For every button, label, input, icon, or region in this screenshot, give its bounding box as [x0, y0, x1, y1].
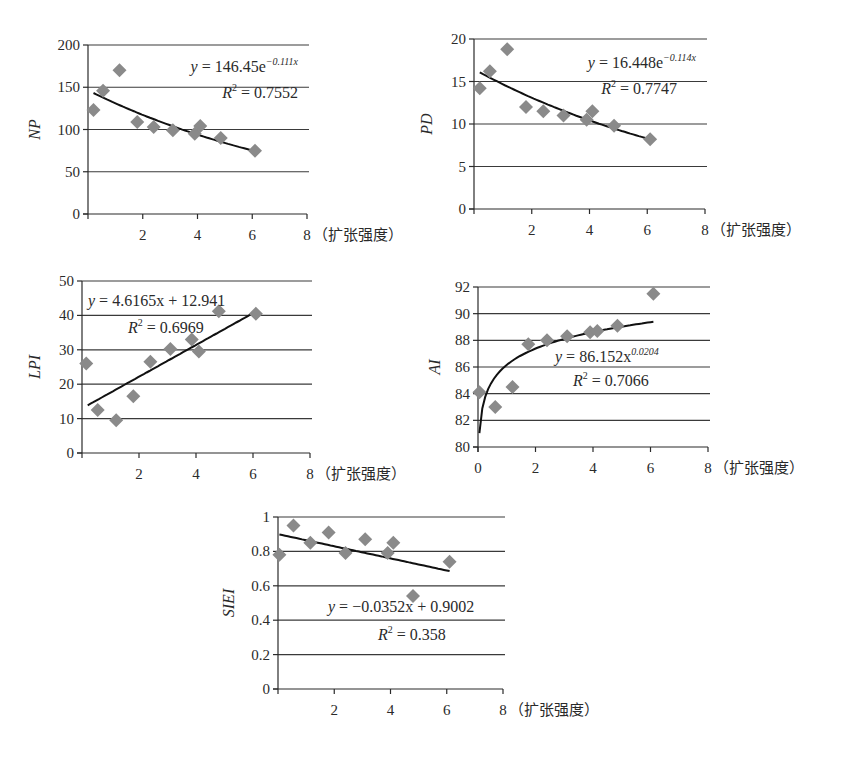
figure: 0501001502002468（扩张强度）NPy = 146.45e−0.11… — [0, 0, 847, 758]
data-point — [646, 287, 660, 301]
y-tick-label: 86 — [455, 359, 471, 375]
trendline-equation: y = 86.152x0.0204 — [553, 346, 659, 366]
x-axis-unit-label: （扩张强度） — [714, 460, 804, 476]
x-tick-label: 6 — [249, 227, 257, 243]
y-tick-label: 88 — [455, 332, 470, 348]
x-tick-label: 4 — [194, 227, 202, 243]
data-point — [112, 63, 126, 77]
x-axis-unit-label: （扩张强度） — [509, 702, 599, 718]
y-tick-label: 50 — [65, 164, 80, 180]
data-point — [557, 109, 571, 123]
y-tick-label: 0 — [263, 681, 271, 697]
y-tick-label: 0 — [73, 206, 81, 222]
y-tick-label: 20 — [451, 31, 466, 47]
data-point — [248, 144, 262, 158]
data-point — [488, 400, 502, 414]
data-point — [130, 115, 144, 129]
y-tick-label: 92 — [455, 279, 470, 295]
y-tick-label: 0.8 — [251, 543, 270, 559]
r-squared-label: R2 = 0.7552 — [221, 82, 298, 101]
y-tick-label: 1 — [263, 509, 271, 525]
y-tick-label: 0 — [67, 445, 75, 461]
x-axis-unit-label: （扩张强度） — [711, 222, 801, 238]
data-point — [473, 81, 487, 95]
x-tick-label: 4 — [586, 222, 594, 238]
y-tick-label: 15 — [451, 74, 466, 90]
y-tick-label: 30 — [59, 342, 74, 358]
trendline-equation: y = 4.6165x + 12.941 — [86, 292, 225, 310]
y-tick-label: 40 — [59, 307, 74, 323]
data-point — [249, 307, 263, 321]
y-tick-label: 5 — [459, 159, 467, 175]
r-squared-label: R2 = 0.7747 — [600, 78, 677, 97]
y-axis-title: SIEI — [220, 588, 237, 617]
data-point — [322, 525, 336, 539]
x-tick-label: 6 — [443, 702, 451, 718]
x-tick-label: 8 — [701, 222, 709, 238]
x-tick-label: 0 — [474, 460, 482, 476]
x-tick-label: 2 — [331, 702, 339, 718]
y-tick-label: 100 — [58, 122, 81, 138]
y-axis-title: LPI — [26, 354, 43, 380]
r-squared-label: R2 = 0.6969 — [127, 317, 204, 336]
x-tick-label: 8 — [704, 460, 712, 476]
y-tick-label: 84 — [455, 386, 471, 402]
data-point — [286, 519, 300, 533]
data-point — [560, 329, 574, 343]
x-tick-label: 4 — [192, 466, 200, 482]
data-point — [643, 132, 657, 146]
data-point — [126, 389, 140, 403]
trendline — [94, 93, 256, 151]
x-axis-unit-label: （扩张强度） — [313, 227, 403, 243]
data-point — [109, 413, 123, 427]
chart-lpi: 010203040502468（扩张强度）LPIy = 4.6165x + 12… — [26, 273, 406, 482]
y-tick-label: 82 — [455, 412, 470, 428]
x-tick-label: 4 — [387, 702, 395, 718]
x-tick-label: 2 — [139, 227, 147, 243]
x-tick-label: 8 — [499, 702, 507, 718]
trendline-equation: y = −0.0352x + 0.9002 — [326, 598, 474, 616]
y-tick-label: 0.6 — [251, 578, 270, 594]
y-tick-label: 0 — [459, 201, 467, 217]
data-point — [500, 42, 514, 56]
x-tick-label: 8 — [306, 466, 314, 482]
y-tick-label: 200 — [58, 37, 81, 53]
chart-siei: 00.20.40.60.812468（扩张强度）SIEIy = −0.0352x… — [220, 509, 599, 718]
data-point — [303, 536, 317, 550]
y-tick-label: 0.2 — [251, 647, 270, 663]
chart-ai: 8082848688909202468（扩张强度）AIy = 86.152x0.… — [426, 279, 804, 476]
data-point — [536, 104, 550, 118]
data-point — [610, 319, 624, 333]
y-axis-title: AI — [426, 359, 443, 376]
x-tick-label: 2 — [532, 460, 540, 476]
y-axis-title: PD — [418, 113, 435, 136]
y-tick-label: 10 — [451, 116, 466, 132]
data-point — [272, 548, 286, 562]
x-tick-label: 2 — [135, 466, 143, 482]
trendline-equation: y = 146.45e−0.111x — [189, 56, 299, 76]
data-point — [506, 380, 520, 394]
y-tick-label: 0.4 — [251, 612, 270, 628]
y-tick-label: 50 — [59, 273, 74, 289]
x-tick-label: 8 — [303, 227, 311, 243]
data-point — [443, 555, 457, 569]
x-tick-label: 4 — [589, 460, 597, 476]
r-squared-label: R2 = 0.7066 — [572, 370, 649, 389]
x-tick-label: 6 — [644, 222, 652, 238]
x-axis-unit-label: （扩张强度） — [316, 466, 406, 482]
data-point — [163, 342, 177, 356]
y-tick-label: 150 — [58, 79, 81, 95]
chart-pd: 051015202468（扩张强度）PDy = 16.448e−0.114xR2… — [418, 31, 801, 238]
y-axis-title: NP — [26, 119, 43, 141]
chart-np: 0501001502002468（扩张强度）NPy = 146.45e−0.11… — [26, 37, 403, 243]
y-tick-label: 80 — [455, 439, 470, 455]
data-point — [358, 532, 372, 546]
data-point — [91, 403, 105, 417]
data-point — [519, 100, 533, 114]
trendline-equation: y = 16.448e−0.114x — [586, 52, 697, 72]
y-tick-label: 10 — [59, 411, 74, 427]
data-point — [79, 357, 93, 371]
x-tick-label: 6 — [249, 466, 257, 482]
y-tick-label: 90 — [455, 306, 470, 322]
r-squared-label: R2 = 0.358 — [377, 624, 446, 643]
